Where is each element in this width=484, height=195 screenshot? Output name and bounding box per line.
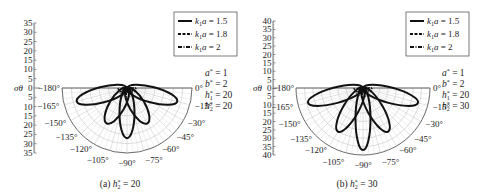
param-label: a* = 1 (205, 68, 228, 78)
param-label: a* = 1 (442, 68, 465, 78)
polar-plot-b: 4035302520151050510152025303540σθ−180°−1… (242, 0, 484, 195)
legend: k1a = 1.5k1a = 1.8k1a = 2 (174, 12, 237, 56)
angle-tick-label: −165° (271, 102, 294, 112)
angle-tick-label: −75° (382, 157, 400, 167)
radial-axis-label: σθ (253, 83, 262, 93)
angle-tick-label: −45° (414, 134, 432, 144)
radial-axis-label: σθ (14, 83, 23, 93)
angle-tick-label: −90° (354, 160, 372, 170)
figure-caption: (b) h*2 = 30 (337, 179, 378, 190)
radial-axis: 353025201510505101520253035 (24, 18, 37, 158)
angle-tick-label: −120° (70, 144, 93, 154)
radial-tick-label: 35 (24, 148, 34, 158)
polar-plot-a: 353025201510505101520253035σθ−180°−165°−… (0, 0, 242, 195)
parameters: a* = 1b* = 2h*1 = 20h*2 = 20 (205, 68, 233, 112)
angle-tick-label: −105° (322, 157, 345, 167)
angle-tick-label: −135° (290, 134, 313, 144)
param-label: b* = 2 (442, 79, 465, 89)
param-label: h*1 = 20 (205, 90, 233, 101)
angle-tick-label: −30° (425, 119, 443, 129)
angle-tick-label: 0° (195, 83, 204, 93)
param-label: h*1 = 20 (442, 90, 470, 101)
angle-tick-label: −180° (38, 83, 61, 93)
angle-tick-label: −150° (278, 119, 301, 129)
angle-tick-label: −120° (305, 145, 328, 155)
param-label: b* = 2 (205, 79, 228, 89)
param-label: h*2 = 20 (205, 101, 233, 112)
legend-label: k1a = 2 (195, 42, 221, 53)
figure-caption: (a) h*2 = 20 (100, 179, 141, 190)
angle-tick-label: 0° (433, 83, 442, 93)
angle-tick-label: −165° (37, 101, 60, 111)
polar-chart-b: 4035302520151050510152025303540σθ−180°−1… (242, 0, 484, 195)
legend-label: k1a = 2 (427, 42, 453, 53)
angle-tick-label: −150° (44, 118, 67, 128)
angle-tick-label: −60° (162, 144, 180, 154)
angle-tick-label: −180° (272, 83, 295, 93)
radial-tick-label: 40 (263, 150, 273, 160)
angle-tick-label: −75° (145, 155, 163, 165)
angle-tick-label: −135° (55, 132, 78, 142)
legend: k1a = 1.5k1a = 1.8k1a = 2 (406, 12, 469, 56)
angle-tick-label: −60° (399, 145, 417, 155)
angle-tick-label: −30° (188, 118, 206, 128)
param-label: h*2 = 30 (442, 101, 470, 112)
parameters: a* = 1b* = 2h*1 = 20h*2 = 30 (442, 68, 470, 112)
angle-tick-label: −90° (118, 158, 136, 168)
polar-chart-a: 353025201510505101520253035σθ−180°−165°−… (0, 0, 242, 195)
angle-tick-label: −105° (87, 155, 110, 165)
angle-tick-label: −45° (176, 132, 194, 142)
